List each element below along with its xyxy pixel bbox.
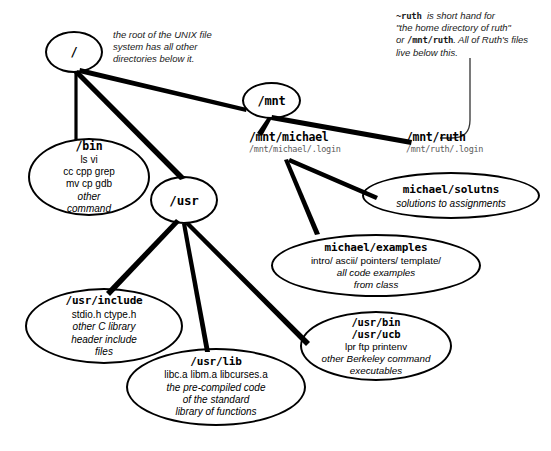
root-annotation: the root of the UNIX file system has all… — [113, 29, 212, 66]
node-bin-line-1: ls vi — [80, 154, 97, 166]
node-usr-include-note-2: header include — [71, 334, 137, 346]
node-michael-examples[interactable]: michael/examples intro/ ascii/ pointers/… — [271, 234, 481, 297]
ruth-annotation-line2: "the home directory of ruth" — [396, 22, 528, 34]
node-usr-include-line-1: stdio.h ctype.h — [72, 309, 136, 321]
node-mnt[interactable]: /mnt — [242, 82, 301, 119]
label-mnt-ruth[interactable]: /mnt/ruth /mnt/ruth/.login — [406, 130, 483, 154]
node-usr[interactable]: /usr — [150, 176, 218, 224]
node-usr-include-note-3: files — [95, 346, 113, 358]
node-usr-bin-note-1: other Berkeley command — [322, 353, 431, 365]
node-usr-lib[interactable]: /usr/lib libc.a libm.a libcurses.a the p… — [126, 348, 306, 426]
label-mnt-michael[interactable]: /mnt/michael /mnt/michael/.login — [249, 130, 341, 154]
node-bin[interactable]: /bin ls vi cc cpp grep mv cp gdb other c… — [28, 138, 150, 216]
node-bin-note-1: other — [78, 191, 101, 203]
node-usr-bin-title: /usr/bin — [352, 316, 401, 329]
node-bin-line-2: cc cpp grep — [63, 166, 115, 178]
ruth-annotation-line1: ~ruth is short hand for — [396, 10, 528, 22]
edge-ruthnote-mntruth — [440, 58, 470, 138]
node-mnt-title: /mnt — [257, 94, 285, 108]
filesystem-diagram: the root of the UNIX file system has all… — [0, 0, 551, 451]
ruth-annotation-line3-pre: or — [396, 34, 404, 45]
node-usr-include-note-1: other C library — [73, 321, 136, 333]
label-mnt-michael-sub: /mnt/michael/.login — [249, 144, 341, 154]
node-usr-bin-ucb[interactable]: /usr/bin /usr/ucb lpr ftp printenv other… — [300, 311, 452, 381]
node-root[interactable]: / — [45, 31, 103, 73]
ruth-tilde-token: ~ruth — [396, 11, 422, 21]
ruth-annotation-line3: or /mnt/ruth. All of Ruth's files — [396, 34, 528, 46]
node-bin-note-2: command — [67, 203, 111, 215]
ruth-annotation-line4: live below this. — [396, 47, 528, 59]
ruth-annotation-line3-rest: . All of Ruth's files — [453, 34, 528, 45]
node-usr-lib-note-2: of the standard — [183, 394, 250, 406]
root-annotation-line2: system has all other — [113, 41, 212, 53]
edge-usr-include — [106, 219, 180, 296]
ruth-path-token: /mnt/ruth — [407, 35, 453, 45]
node-usr-lib-title: /usr/lib — [190, 355, 241, 368]
node-root-title: / — [70, 45, 77, 59]
root-annotation-line3: directories below it. — [113, 53, 212, 65]
node-michael-examples-line-1: intro/ ascii/ pointers/ template/ — [311, 255, 441, 267]
node-michael-solutns-title: michael/solutns — [403, 183, 499, 196]
node-michael-solutns[interactable]: michael/solutns solutions to assignments — [362, 172, 540, 219]
node-usr-title: /usr — [169, 193, 198, 208]
label-mnt-michael-path: /mnt/michael — [249, 130, 341, 144]
label-mnt-ruth-path: /mnt/ruth — [406, 130, 483, 144]
node-bin-title: /bin — [76, 139, 103, 153]
node-bin-line-3: mv cp gdb — [66, 178, 112, 190]
ruth-annotation: ~ruth is short hand for "the home direct… — [396, 10, 528, 59]
node-usr-lib-note-1: the pre-compiled code — [167, 382, 266, 394]
node-usr-ucb-title: /usr/ucb — [352, 328, 401, 341]
node-usr-include[interactable]: /usr/include stdio.h ctype.h other C lib… — [25, 288, 183, 364]
node-usr-bin-line-1: lpr ftp printenv — [345, 341, 407, 353]
node-usr-lib-note-3: library of functions — [175, 406, 256, 418]
node-michael-examples-note-2: from class — [354, 279, 399, 291]
label-mnt-ruth-sub: /mnt/ruth/.login — [406, 144, 483, 154]
node-usr-lib-line-1: libc.a libm.a libcurses.a — [164, 369, 267, 381]
ruth-annotation-line1-rest: is short hand for — [427, 10, 495, 21]
root-annotation-line1: the root of the UNIX file — [113, 29, 212, 41]
node-michael-solutns-note: solutions to assignments — [396, 198, 506, 209]
node-usr-bin-note-2: executables — [350, 365, 402, 377]
node-michael-examples-title: michael/examples — [325, 241, 428, 254]
node-usr-include-title: /usr/include — [65, 294, 142, 307]
node-michael-examples-note-1: all code examples — [337, 267, 415, 279]
edge-root-mnt — [79, 68, 247, 112]
